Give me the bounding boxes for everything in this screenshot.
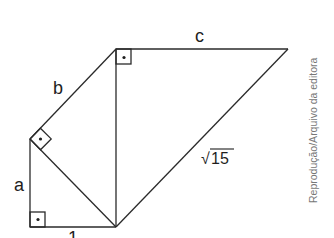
segment-b — [30, 49, 116, 139]
label-b: b — [53, 78, 63, 98]
sqrt-value: 15 — [211, 150, 229, 167]
sqrt-radical-sign: √ — [201, 150, 210, 167]
image-credit: Reprodução/Arquivo da editora — [307, 58, 319, 203]
label-c: c — [195, 26, 204, 46]
label-1: 1 — [68, 228, 78, 238]
geometry-figure: a b c 1 √ 15 — [0, 0, 334, 238]
label-a: a — [14, 175, 25, 195]
segment-sqrt15 — [116, 49, 288, 227]
diagonal-inner-1 — [30, 139, 116, 227]
right-angle-dot-bottom — [36, 218, 39, 221]
right-angle-dot-left — [39, 137, 42, 140]
right-angle-dot-top — [122, 56, 125, 59]
label-sqrt15: √ 15 — [201, 149, 234, 167]
